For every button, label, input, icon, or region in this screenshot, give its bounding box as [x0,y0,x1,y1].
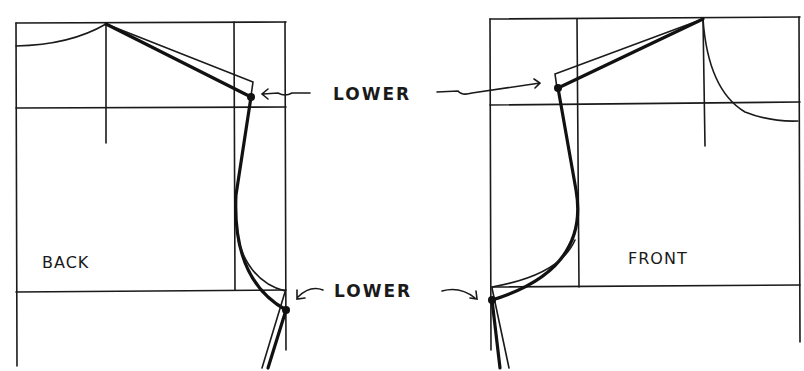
underarm-lower-label: LOWER [334,281,412,301]
front-waist-line [492,285,800,287]
front-right-line [799,17,800,342]
front-label: FRONT [628,249,688,268]
back-neckline [16,24,106,46]
back-waist-line [16,290,286,292]
front-top-line [490,17,800,19]
back-label: BACK [42,253,89,272]
back-underarm-point [282,306,290,314]
front-underarm-point [488,296,496,304]
back-chest-line [16,107,286,108]
back-bodice-draft: BACK [16,22,290,368]
back-left-line [16,23,17,366]
back-lowered-shoulder [106,24,251,97]
front-armhole [492,88,578,300]
back-right-line [285,22,286,350]
front-original-armhole [492,240,575,287]
front-lowered-shoulder [558,19,703,88]
pattern-diagram: BACK FRONT LOWER LOWER [0,0,804,371]
back-armhole-guide [234,22,235,290]
front-chest-line [490,102,800,105]
arrow-to-front-underarm [442,290,477,299]
front-armhole-guide [577,19,579,287]
front-neckline [703,19,798,121]
shoulder-annotation: LOWER [262,79,540,104]
shoulder-lower-label: LOWER [333,84,411,104]
back-shoulder-point [247,93,255,101]
back-top-line [16,22,286,23]
front-shoulder-point [554,84,562,92]
arrow-to-back-underarm [297,289,323,299]
front-bodice-draft: FRONT [488,17,800,368]
arrow-to-front-shoulder [437,79,540,94]
underarm-annotation: LOWER [297,281,477,301]
